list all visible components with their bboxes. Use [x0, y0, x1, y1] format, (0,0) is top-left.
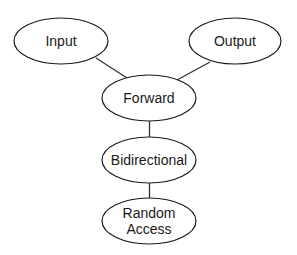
node-output: Output — [189, 18, 281, 64]
node-forward-label: Forward — [123, 90, 174, 106]
node-input-label: Input — [45, 33, 76, 49]
node-forward: Forward — [102, 75, 196, 121]
edge-output-forward — [177, 62, 210, 80]
node-bidirectional: Bidirectional — [102, 137, 196, 183]
node-random-access-label-line1: Random — [123, 205, 176, 221]
node-random-access: Random Access — [102, 198, 196, 244]
edge-input-forward — [96, 58, 127, 78]
node-input: Input — [14, 18, 108, 64]
node-output-label: Output — [214, 33, 256, 49]
node-bidirectional-label: Bidirectional — [111, 152, 187, 168]
node-random-access-label-line2: Access — [126, 221, 171, 237]
iterator-hierarchy-diagram: Input Output Forward Bidirectional Rando… — [0, 0, 297, 255]
